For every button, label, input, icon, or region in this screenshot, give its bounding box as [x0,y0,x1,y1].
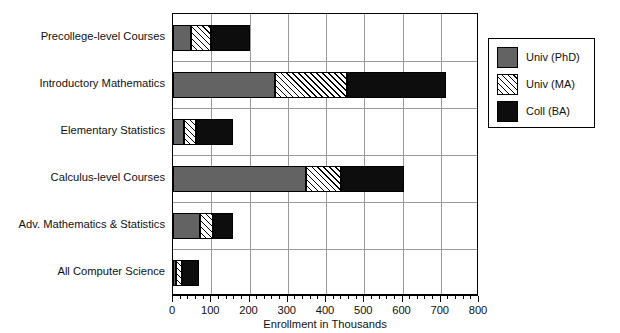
bar-introductory-mathematics [173,72,479,98]
category-label: Calculus-level Courses [8,171,165,184]
bar-segment [213,213,233,239]
x-tick-minor [417,296,418,299]
x-tick-minor [409,296,410,299]
bar-elementary-statistics [173,119,479,145]
x-tick-label: 300 [267,304,307,316]
x-tick-minor [195,296,196,299]
x-tick-minor [218,296,219,299]
plot-area [172,13,478,295]
legend-label: Coll (BA) [526,105,570,117]
x-tick-major [287,296,288,302]
gridline-x-300 [288,14,289,294]
legend-swatch [497,47,518,68]
x-tick-minor [386,296,387,299]
category-label: Elementary Statistics [8,124,165,137]
x-tick-major [325,296,326,302]
bar-segment [191,25,211,51]
x-tick-minor [180,296,181,299]
gridline-x-700 [441,14,442,294]
category-label: All Computer Science [8,265,165,278]
x-tick-minor [256,296,257,299]
gridline-x-600 [403,14,404,294]
gridline-x-100 [211,14,212,294]
x-tick-major [210,296,211,302]
x-tick-label: 800 [458,304,498,316]
x-tick-minor [310,296,311,299]
x-tick-minor [379,296,380,299]
x-tick-label: 100 [190,304,230,316]
x-tick-minor [317,296,318,299]
legend-swatch [497,101,518,122]
legend: Univ (PhD)Univ (MA)Coll (BA) [488,38,595,128]
category-label: Precollege-level Courses [8,30,165,43]
x-tick-minor [233,296,234,299]
x-tick-label: 700 [420,304,460,316]
bar-segment [341,166,404,192]
x-tick-major [440,296,441,302]
x-tick-minor [424,296,425,299]
gridline-row-3 [173,155,477,156]
x-tick-major [172,296,173,302]
legend-swatch [497,74,518,95]
gridline-x-500 [364,14,365,294]
x-tick-major [249,296,250,302]
bar-segment [173,213,200,239]
gridline-row-2 [173,108,477,109]
bar-segment [173,25,191,51]
bar-segment [306,166,341,192]
bar-all-computer-science [173,260,479,286]
x-tick-minor [340,296,341,299]
stacked-bar-chart: Precollege-level CoursesIntroductory Mat… [0,0,620,333]
gridline-row-4 [173,202,477,203]
x-tick-minor [264,296,265,299]
x-tick-minor [463,296,464,299]
bar-segment [196,119,234,145]
bar-segment [184,119,195,145]
category-label: Adv. Mathematics & Statistics [8,218,165,231]
bar-segment [173,166,306,192]
x-tick-minor [455,296,456,299]
x-tick-minor [226,296,227,299]
x-tick-minor [447,296,448,299]
x-tick-minor [432,296,433,299]
x-axis-title: Enrollment in Thousands [172,318,478,330]
bar-segment [200,213,213,239]
x-tick-label: 200 [229,304,269,316]
x-tick-minor [394,296,395,299]
x-tick-minor [470,296,471,299]
x-tick-major [478,296,479,302]
gridline-row-1 [173,61,477,62]
x-tick-minor [279,296,280,299]
x-tick-minor [333,296,334,299]
legend-item: Univ (MA) [497,74,592,96]
x-tick-label: 400 [305,304,345,316]
bar-segment [173,119,184,145]
x-tick-minor [371,296,372,299]
bar-segment [211,25,249,51]
category-label: Introductory Mathematics [8,77,165,90]
x-tick-minor [294,296,295,299]
bar-segment [275,72,348,98]
bar-segment [182,260,198,286]
x-tick-minor [348,296,349,299]
x-tick-minor [356,296,357,299]
bar-segment [173,72,275,98]
bar-precollege-level-courses [173,25,479,51]
x-tick-minor [302,296,303,299]
gridline-row-5 [173,249,477,250]
legend-item: Univ (PhD) [497,47,592,69]
legend-label: Univ (MA) [526,78,575,90]
legend-item: Coll (BA) [497,101,592,123]
x-tick-major [363,296,364,302]
x-tick-minor [187,296,188,299]
x-tick-minor [241,296,242,299]
x-tick-major [402,296,403,302]
gridline-x-200 [250,14,251,294]
x-tick-label: 500 [343,304,383,316]
bar-adv-mathematics-statistics [173,213,479,239]
x-tick-minor [203,296,204,299]
x-tick-label: 0 [152,304,192,316]
bar-segment [347,72,446,98]
x-tick-label: 600 [382,304,422,316]
legend-label: Univ (PhD) [526,51,580,63]
